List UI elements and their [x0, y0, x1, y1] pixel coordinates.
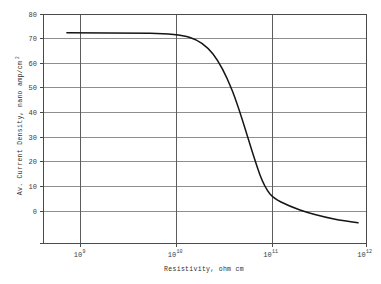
x-tick-label-base: 10	[168, 251, 176, 259]
y-axis-title: Av. Current Density, nano amp/cm	[17, 61, 24, 195]
y-tick-label: 40	[29, 109, 37, 117]
x-axis-ticks	[81, 243, 366, 247]
x-axis-tick-labels: 10 9 10 10 10 11 10 12	[74, 249, 372, 259]
y-tick-label: 10	[29, 183, 37, 191]
y-axis-title-group: Av. Current Density, nano amp/cm 2	[15, 56, 24, 195]
x-tick-label-base: 10	[357, 251, 365, 259]
chart-page: 80 70 60 50 40 30 20 10 0 10 9 10 10 10 …	[0, 0, 381, 284]
y-tick-label: 30	[29, 134, 37, 142]
y-tick-label: 0	[33, 208, 37, 216]
y-tick-label: 50	[29, 84, 37, 92]
x-axis-title: Resistivity, ohm cm	[164, 266, 244, 273]
y-tick-label: 60	[29, 60, 37, 68]
y-axis-title-superscript: 2	[15, 56, 20, 59]
resistivity-current-density-chart: 80 70 60 50 40 30 20 10 0 10 9 10 10 10 …	[0, 0, 381, 284]
x-tick-label-exponent: 12	[366, 249, 372, 255]
x-tick-label-exponent: 10	[177, 249, 183, 255]
y-axis-tick-labels: 80 70 60 50 40 30 20 10 0	[29, 11, 37, 216]
x-tick-label-exponent: 9	[83, 249, 86, 255]
x-tick-label-base: 10	[263, 251, 271, 259]
x-tick-label-base: 10	[74, 251, 82, 259]
x-tick-label-exponent: 11	[272, 249, 278, 255]
y-tick-label: 80	[29, 11, 37, 19]
y-tick-label: 70	[29, 35, 37, 43]
plot-background	[43, 14, 366, 243]
y-tick-label: 20	[29, 158, 37, 166]
